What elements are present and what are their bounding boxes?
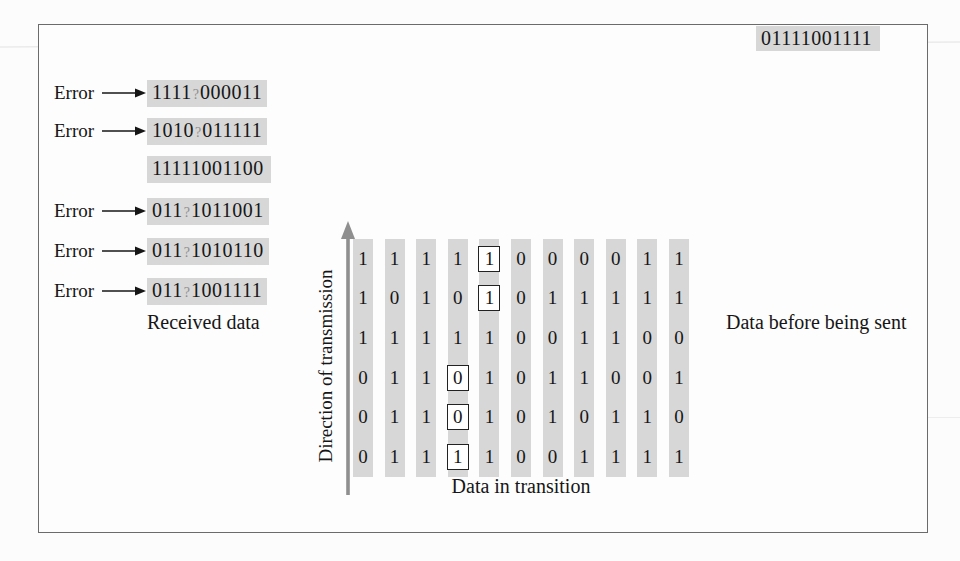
bit-cell: 0 (574, 239, 594, 279)
bit: 1 (643, 406, 653, 428)
received-bits: 1010?011111 (147, 118, 267, 145)
bit: 1 (579, 327, 589, 349)
bit-cell: 0 (353, 397, 373, 437)
bit: 1 (421, 367, 431, 389)
bit: 0 (643, 367, 653, 389)
bit: 0 (579, 406, 589, 428)
bit-cell: 1 (574, 279, 594, 319)
boxed-bit: 0 (447, 365, 469, 391)
bit-cell: 1 (416, 437, 436, 477)
unknown-bit: ? (195, 125, 201, 140)
bit: 0 (516, 446, 526, 468)
bit-cell: 1 (669, 239, 689, 279)
bit-cell: 1 (606, 397, 626, 437)
error-arrow-icon (102, 87, 146, 99)
bit-cell: 1 (385, 318, 405, 358)
bit-cell: 1 (669, 279, 689, 319)
error-arrow-icon (102, 285, 146, 297)
received-row: Error 011?1011001 (54, 198, 269, 224)
error-arrow-icon (102, 125, 146, 137)
bit-cell: 1 (637, 239, 657, 279)
bit: 0 (643, 327, 653, 349)
received-row: Error 011?1001111 (54, 278, 267, 304)
unknown-bit: ? (184, 245, 190, 260)
figure-box: Error 1111?000011 Error 1010?011111 Erro… (38, 24, 928, 533)
bit: 0 (516, 287, 526, 309)
bit-cell: 0 (606, 239, 626, 279)
bit-cell: 1 (637, 397, 657, 437)
bit: 1 (674, 367, 684, 389)
bit: 1 (421, 248, 431, 270)
bit-cell: 0 (353, 437, 373, 477)
bit-cell: 1 (448, 318, 468, 358)
bit-cell: 1 (606, 279, 626, 319)
received-bits: 011?1010110 (147, 238, 269, 265)
bit-cell: 1 (543, 397, 563, 437)
bit-cell: 1 (637, 437, 657, 477)
bit-column: 110011 (637, 239, 657, 477)
bit-cell: 1 (479, 358, 499, 398)
bit: 0 (516, 367, 526, 389)
bit: 1 (358, 287, 368, 309)
error-label: Error (54, 120, 94, 142)
sent-bits: 01111001111 (756, 26, 877, 51)
bit: 1 (421, 446, 431, 468)
bit-cell: 1 (606, 318, 626, 358)
bit-cell: 1 (574, 437, 594, 477)
bit: 1 (548, 406, 558, 428)
bit-cell: 1 (416, 279, 436, 319)
bit-cell: 0 (448, 397, 468, 437)
bit-cell: 1 (385, 239, 405, 279)
bit-cell: 1 (385, 437, 405, 477)
received-row: Error 011?1010110 (54, 238, 269, 264)
bit-cell: 1 (574, 358, 594, 398)
bit-cell: 1 (479, 397, 499, 437)
bit: 0 (674, 327, 684, 349)
bits-post: 000011 (200, 81, 262, 103)
bits-post: 1001111 (191, 279, 262, 301)
bit-cell: 1 (479, 239, 499, 279)
bit: 0 (453, 287, 463, 309)
bit: 1 (485, 406, 495, 428)
bit-cell: 0 (385, 279, 405, 319)
bit-cell: 1 (637, 279, 657, 319)
bit: 1 (611, 287, 621, 309)
error-arrow-icon (102, 205, 146, 217)
bit: 1 (421, 287, 431, 309)
bit: 1 (643, 287, 653, 309)
bit: 1 (611, 406, 621, 428)
bits-pre: 11111001100 (152, 157, 264, 179)
bit: 1 (358, 248, 368, 270)
received-row: Error 1010?011111 (54, 118, 267, 144)
bit: 1 (485, 446, 495, 468)
unknown-bit: ? (184, 285, 190, 300)
error-indicator: Error (54, 240, 147, 262)
error-label: Error (54, 280, 94, 302)
bits-pre: 1010 (152, 119, 194, 141)
error-indicator: Error (54, 280, 147, 302)
bit: 1 (453, 248, 463, 270)
bit: 0 (579, 248, 589, 270)
bit-column: 111111 (479, 239, 499, 477)
bit: 0 (358, 446, 368, 468)
bit-cell: 1 (669, 358, 689, 398)
direction-label: Direction of transmission (315, 231, 339, 501)
bit: 1 (390, 367, 400, 389)
transition-caption: Data in transition (353, 475, 689, 498)
bit-cell: 1 (353, 279, 373, 319)
bit: 1 (358, 327, 368, 349)
bit-cell: 1 (479, 437, 499, 477)
error-label: Error (54, 82, 94, 104)
bits-pre: 011 (152, 199, 183, 221)
sent-caption: Data before being sent (726, 311, 906, 334)
error-arrow-icon (102, 245, 146, 257)
bits-pre: 1111 (152, 81, 192, 103)
bit: 0 (358, 406, 368, 428)
bit: 1 (421, 327, 431, 349)
bit-cell: 0 (511, 239, 531, 279)
bits-post: 1011001 (191, 199, 264, 221)
bit: 1 (390, 248, 400, 270)
bit-cell: 1 (416, 318, 436, 358)
bit-cell: 0 (669, 318, 689, 358)
bit-cell: 0 (448, 358, 468, 398)
